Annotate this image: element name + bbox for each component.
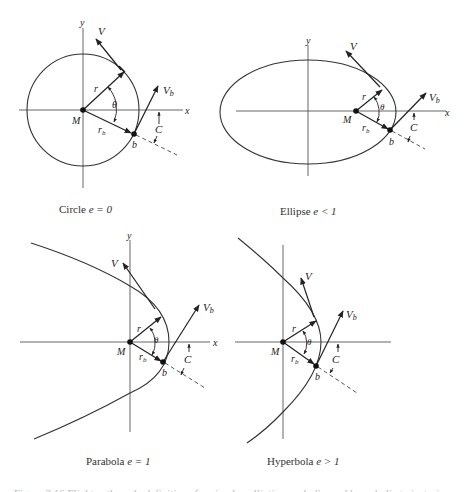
r-label: r [292, 323, 296, 334]
rb-vector [356, 111, 388, 129]
r-label: r [137, 323, 141, 334]
v-label: V [98, 25, 106, 37]
v-vector [96, 39, 121, 70]
theta-arc [374, 97, 379, 122]
v-label: V [305, 270, 313, 282]
parabola-orbit [31, 243, 169, 439]
v-vector [301, 278, 314, 317]
rb-label: rb [362, 122, 370, 135]
v-label: V [111, 257, 119, 269]
y-axis-label: y [305, 35, 311, 46]
m-label: M [270, 346, 280, 357]
x-axis-label: x [184, 105, 190, 116]
r-vector [83, 72, 124, 110]
b-label: b [389, 136, 394, 147]
m-label: M [342, 114, 352, 125]
c-angle-arc-lower [181, 368, 184, 375]
b-label: b [162, 367, 167, 378]
parabola-panel: y x V Vb r θ M rb b C [20, 230, 218, 439]
y-axis-label: y [126, 230, 132, 241]
x-axis-label: x [444, 107, 450, 118]
caption-eccentricity: e = 0 [89, 203, 112, 215]
orbit-flight-path-figure: y x V Vb r θ M rb b C y x V Vb r θ M rb … [0, 0, 469, 492]
m-label: M [71, 115, 81, 126]
point-b [160, 359, 166, 365]
caption-name: Circle [59, 203, 86, 215]
c-angle-arc-lower [154, 136, 157, 143]
ellipse-caption: Ellipse e < 1 [280, 205, 337, 217]
rb-label: rb [291, 353, 299, 366]
caption-name: Parabola [86, 455, 124, 467]
caption-eccentricity: e > 1 [316, 455, 339, 467]
rb-label: rb [139, 351, 147, 364]
rb-extension-dashed [165, 363, 205, 388]
hyperbola-panel: V Vb r θ M rb b C [235, 238, 391, 443]
c-angle-arc-lower [330, 368, 333, 373]
circle-panel: y x V Vb r θ M rb b C [19, 17, 190, 188]
r-label: r [362, 91, 366, 102]
focus-point-m [353, 108, 359, 114]
vb-label: Vb [203, 301, 214, 315]
c-label: C [410, 121, 418, 133]
caption-name: Ellipse [280, 205, 311, 217]
x-axis-label: x [212, 337, 218, 348]
c-label: C [332, 353, 340, 365]
rb-vector [83, 110, 131, 133]
theta-label: θ [380, 102, 385, 112]
c-label: C [155, 123, 163, 135]
c-angle-arc-lower [408, 136, 410, 142]
point-b [131, 131, 137, 137]
vb-label: Vb [346, 308, 357, 322]
r-vector [356, 90, 382, 111]
focus-point-m [127, 339, 133, 345]
theta-label: θ [112, 99, 117, 110]
theta-label: θ [307, 337, 312, 347]
circle-caption: Circle e = 0 [59, 203, 112, 215]
caption-eccentricity: e < 1 [313, 205, 336, 217]
focus-point-m [80, 107, 86, 113]
figure-caption-truncated: Figure 2.16 Flight path angle definition… [14, 486, 451, 492]
rb-extension-dashed [318, 367, 357, 393]
vb-vector [390, 93, 426, 130]
hyperbola-caption: Hyperbola e > 1 [267, 455, 340, 467]
point-b [313, 363, 319, 369]
parabola-caption: Parabola e = 1 [86, 455, 151, 467]
caption-name: Hyperbola [267, 455, 313, 467]
vb-label: Vb [163, 84, 174, 98]
v-label: V [350, 40, 358, 52]
theta-label: θ [154, 335, 159, 345]
v-vector [123, 263, 155, 309]
vb-label: Vb [429, 91, 440, 105]
b-label: b [132, 139, 137, 150]
r-label: r [94, 83, 98, 94]
c-label: C [184, 353, 192, 365]
caption-eccentricity: e = 1 [127, 455, 150, 467]
v-vector [346, 51, 380, 87]
focus-point-m [280, 339, 286, 345]
rb-label: rb [98, 124, 106, 137]
ellipse-panel: y x V Vb r θ M rb b C [220, 35, 450, 176]
point-b [387, 127, 393, 133]
m-label: M [116, 346, 126, 357]
b-label: b [315, 371, 320, 382]
y-axis-label: y [79, 17, 85, 28]
